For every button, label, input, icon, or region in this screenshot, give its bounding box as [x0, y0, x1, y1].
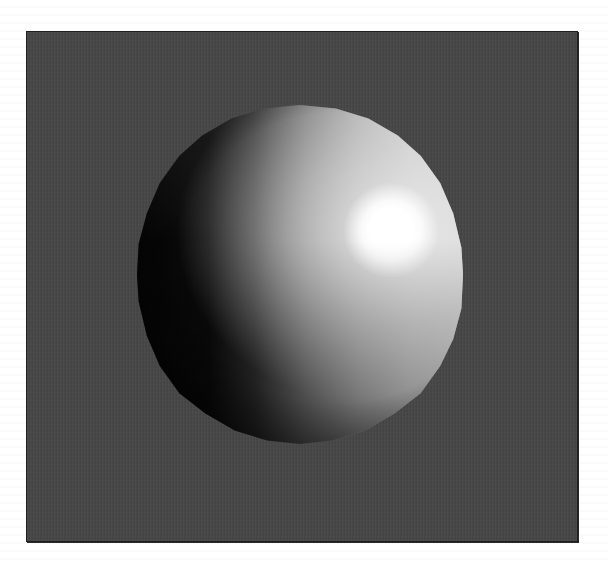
sphere-rim-shadow [137, 105, 463, 444]
shaded-sphere [137, 105, 463, 444]
render-viewport [26, 31, 578, 542]
